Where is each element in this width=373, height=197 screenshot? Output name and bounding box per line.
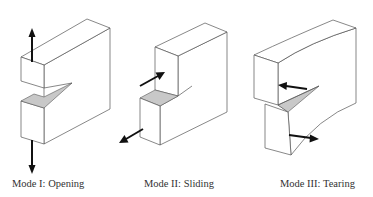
mode-1-lower-front-face	[21, 101, 44, 144]
mode-3-upper-front-face	[254, 55, 278, 105]
fracture-modes-diagram	[0, 0, 373, 197]
mode-2-lower-front-face	[140, 98, 160, 145]
mode-2-sliding-figure	[119, 23, 227, 145]
mode-2-upper-front-face	[155, 47, 178, 96]
mode-1-caption: Mode I: Opening	[12, 178, 84, 189]
mode-1-opening-figure	[21, 19, 110, 174]
mode-2-caption: Mode II: Sliding	[144, 178, 214, 189]
mode-3-tearing-figure	[254, 20, 356, 155]
mode-1-down-arrow-icon	[29, 140, 36, 174]
mode-3-caption: Mode III: Tearing	[280, 178, 355, 189]
mode-2-backward-arrow-icon	[119, 129, 143, 143]
